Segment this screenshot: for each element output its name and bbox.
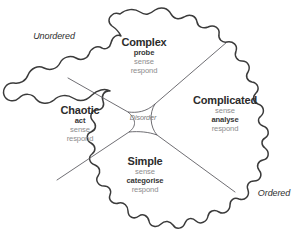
domain-complicated-action-3: respond: [178, 125, 272, 134]
domain-chaotic-action-3: respond: [42, 135, 118, 144]
domain-complex[interactable]: Complex probe sense respond: [104, 36, 184, 76]
axis-label-unordered: Unordered: [22, 31, 86, 42]
cynefin-diagram-canvas: Unordered Ordered Disorder Complex probe…: [0, 0, 307, 237]
disorder-label: Disorder: [118, 114, 168, 122]
domain-simple[interactable]: Simple sense categorise respond: [104, 155, 186, 195]
domain-complex-action-3: respond: [104, 67, 184, 76]
domain-simple-action-3: respond: [104, 186, 186, 195]
domain-chaotic[interactable]: Chaotic act sense respond: [42, 104, 118, 144]
domain-complicated[interactable]: Complicated sense analyse respond: [178, 94, 272, 134]
axis-label-ordered: Ordered: [245, 188, 303, 199]
